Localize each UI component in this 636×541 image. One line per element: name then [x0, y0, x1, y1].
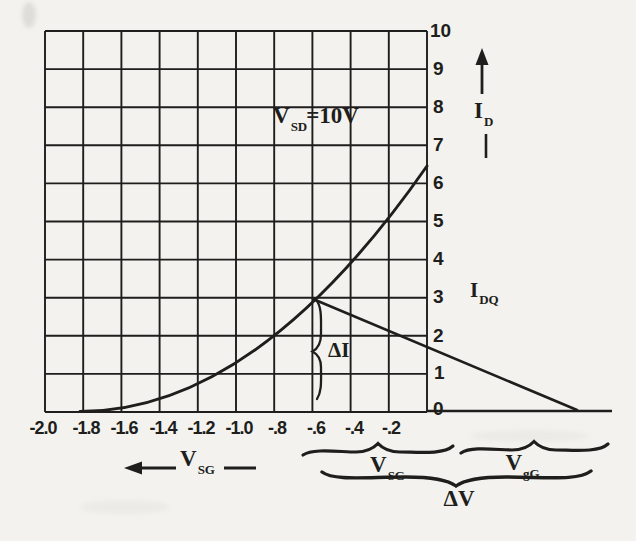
- delta-v-label: ΔV: [443, 486, 474, 512]
- x-tick-neg0.4: -.4: [345, 418, 363, 439]
- x-tick-neg0.6: -.6: [307, 418, 325, 439]
- idq-sub: DQ: [479, 292, 499, 307]
- x-tick-neg0.8: -.8: [268, 418, 286, 439]
- y-tick-8: 8: [433, 96, 444, 118]
- x-tick-neg1.6: -1.6: [110, 418, 137, 439]
- brace-vgg-base: V: [505, 450, 522, 475]
- x-tick-neg2.0: -2.0: [29, 418, 56, 439]
- y-tick-1: 1: [434, 362, 445, 384]
- brace-vsg-sub: SG: [388, 468, 405, 483]
- y-tick-0: 0: [433, 398, 444, 420]
- brace-vsg-base: V: [370, 452, 387, 477]
- x-tick-neg1.4: -1.4: [149, 418, 176, 439]
- id-base: I: [474, 98, 483, 123]
- x-tick-neg0.2: -.2: [382, 418, 400, 439]
- y-tick-10: 10: [430, 20, 451, 42]
- delta-i-label: ΔI: [328, 338, 349, 363]
- brace-label-vgg: VgG: [505, 450, 538, 480]
- brace-label-vsg: VSG: [370, 452, 404, 482]
- xaxis-vsg-sub: SG: [198, 462, 215, 477]
- brace-vgg-sub: gG: [523, 466, 540, 481]
- grid: [45, 31, 427, 412]
- scanned-chart-figure: 10 9 8 7 6 5 4 3 2 1 0 -2.0 -1.8 -1.6 -1…: [0, 0, 636, 541]
- tangent-bias-line: [313, 299, 577, 410]
- x-tick-neg1.2: -1.2: [187, 418, 214, 439]
- vsd-condition-label: VSD=10V: [273, 103, 359, 133]
- y-tick-5: 5: [433, 210, 444, 232]
- id-sub: D: [484, 114, 493, 129]
- vsd-sub: SD: [291, 119, 308, 134]
- x-tick-neg1.0: -1.0: [225, 418, 252, 439]
- y-tick-6: 6: [433, 172, 444, 194]
- y-tick-2: 2: [433, 325, 444, 347]
- idq-label: IDQ: [470, 278, 498, 306]
- y-tick-4: 4: [433, 248, 444, 270]
- chart-canvas: [0, 0, 636, 541]
- x-tick-neg1.8: -1.8: [72, 418, 99, 439]
- y-tick-9: 9: [433, 58, 444, 80]
- y-axis-label-id: ID: [474, 98, 492, 128]
- vsd-rest: =10V: [306, 103, 359, 128]
- xaxis-vsg-base: V: [180, 446, 197, 471]
- y-tick-7: 7: [433, 134, 444, 156]
- idq-base: I: [470, 278, 478, 302]
- vsd-base: V: [273, 103, 290, 128]
- delta-i-brace: [313, 300, 322, 399]
- y-tick-3: 3: [433, 286, 444, 308]
- delta-v-underbrace: [322, 471, 591, 486]
- x-axis-label-vsg: VSG: [180, 446, 214, 476]
